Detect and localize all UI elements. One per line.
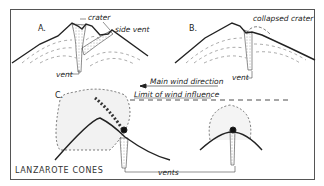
label-collapsed-crater: collapsed crater <box>253 15 313 23</box>
label-vents: vents <box>158 169 179 177</box>
diagram-title: LANZAROTE CONES <box>15 166 103 175</box>
label-side-vent: side vent <box>115 26 150 34</box>
label-crater: crater <box>88 14 110 22</box>
cone-c <box>55 89 262 172</box>
panel-a-letter: A. <box>38 25 46 33</box>
label-main-wind-direction: Main wind direction <box>150 78 223 86</box>
label-limit-of-wind-influence: Limit of wind influence <box>134 91 219 99</box>
label-vent-a: vent <box>56 71 73 79</box>
label-vent-b: vent <box>232 74 249 82</box>
panel-b-letter: B. <box>189 25 197 33</box>
panel-c-letter: C. <box>55 92 63 100</box>
